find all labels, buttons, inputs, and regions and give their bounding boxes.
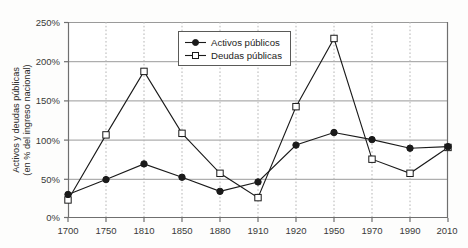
x-tick-label-2010: 2010 (436, 225, 457, 236)
data-point-filled-circle (65, 191, 71, 197)
filled-circle-icon (193, 40, 199, 46)
x-tick-label-1700: 1700 (57, 225, 78, 236)
data-point-filled-circle (103, 176, 109, 182)
data-point-filled-circle (179, 174, 185, 180)
data-point-open-square (293, 103, 299, 109)
y-tick-label-100: 100% (36, 135, 61, 146)
x-tick-label-1950: 1950 (323, 225, 344, 236)
y-axis-title: Activos y deudas públicas (en % del ingr… (11, 64, 32, 175)
data-point-filled-circle (369, 136, 375, 142)
x-tick-label-1970: 1970 (361, 225, 382, 236)
data-point-filled-circle (141, 161, 147, 167)
x-tick-label-1850: 1850 (171, 225, 192, 236)
x-tick-label-1920: 1920 (285, 225, 306, 236)
data-point-open-square (179, 130, 185, 136)
x-tick-label-1910: 1910 (247, 225, 268, 236)
y-tick-label-50: 50% (41, 174, 61, 185)
data-point-open-square (217, 170, 223, 176)
y-tick-label-150: 150% (36, 95, 61, 106)
data-point-open-square (407, 170, 413, 176)
chart-figure: 0% 50% 100% 150% 200% 250% 1700 1750 181… (0, 0, 468, 248)
data-point-filled-circle (217, 188, 223, 194)
legend-label-activos: Activos públicos (211, 37, 280, 48)
data-point-open-square (369, 156, 375, 162)
y-tick-label-200: 200% (36, 56, 61, 67)
y-tick-label-0: 0% (46, 212, 60, 223)
data-point-open-square (331, 35, 337, 41)
data-point-filled-circle (255, 179, 261, 185)
open-square-icon (193, 53, 199, 59)
x-tick-label-1990: 1990 (399, 225, 420, 236)
y-axis-title-line2: (en % del ingreso nacional) (22, 64, 32, 175)
chart-legend: Activos públicos Deudas públicas (179, 32, 291, 66)
data-point-filled-circle (445, 143, 451, 149)
x-tick-label-1880: 1880 (209, 225, 230, 236)
x-tick-label-1750: 1750 (95, 225, 116, 236)
x-tick-label-1810: 1810 (133, 225, 154, 236)
data-point-filled-circle (331, 129, 337, 135)
data-point-open-square (255, 194, 261, 200)
data-point-open-square (141, 68, 147, 74)
data-point-open-square (103, 132, 109, 138)
y-tick-label-250: 250% (36, 17, 61, 28)
data-point-filled-circle (407, 145, 413, 151)
y-axis-title-line1: Activos y deudas públicas (11, 67, 21, 173)
data-point-filled-circle (293, 142, 299, 148)
legend-label-deudas: Deudas públicas (211, 50, 282, 61)
line-chart: 0% 50% 100% 150% 200% 250% 1700 1750 181… (0, 0, 468, 248)
